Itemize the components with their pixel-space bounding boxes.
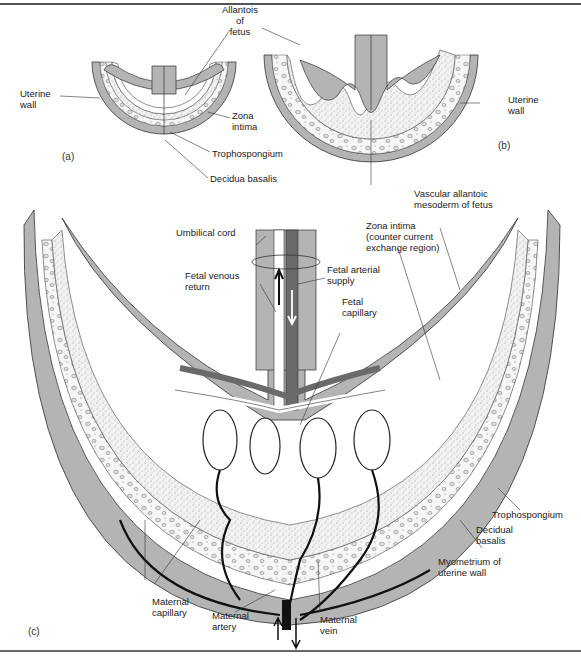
label-a-allantois: Allantois of fetus (222, 4, 258, 37)
label-trophospongium-ab: Trophospongium (212, 148, 283, 159)
villus-1 (203, 410, 237, 470)
label-decidua-basalis-ab: Decidua basalis (210, 173, 277, 184)
label-umbilical-cord: Umbilical cord (176, 227, 236, 238)
villus-4 (354, 410, 390, 470)
label-b-uterine-wall: Uterine wall (508, 94, 539, 116)
label-zona-intima-c: Zona intima (counter current exchange re… (366, 220, 439, 253)
label-maternal-vein: Maternal vein (320, 614, 357, 636)
label-vascular-allantoic-mesoderm: Vascular allantoic mesoderm of fetus (414, 188, 493, 210)
label-fetal-capillary: Fetal capillary (342, 296, 377, 318)
panel-c-id: (c) (28, 626, 40, 637)
label-fetal-arterial-supply: Fetal arterial supply (327, 264, 380, 286)
villus-2 (250, 418, 280, 474)
label-maternal-capillary: Maternal capillary (152, 596, 189, 618)
panel-a-drawing (92, 62, 236, 134)
label-a-zona-intima: Zona intima (232, 110, 257, 132)
label-decidual-basalis: Decidual basalis (476, 524, 513, 546)
villus-3 (300, 418, 336, 478)
label-myometrium: Myometrium of uterine wall (438, 556, 501, 578)
label-trophospongium-c: Trophospongium (492, 509, 563, 520)
panel-a-id: (a) (62, 151, 74, 162)
panel-b-drawing (264, 35, 478, 185)
label-maternal-artery: Maternal artery (212, 610, 249, 632)
panel-c-drawing (24, 210, 560, 648)
label-a-uterine-wall: Uterine wall (20, 88, 51, 110)
panel-b-id: (b) (498, 140, 510, 151)
label-fetal-venous-return: Fetal venous return (185, 270, 239, 292)
